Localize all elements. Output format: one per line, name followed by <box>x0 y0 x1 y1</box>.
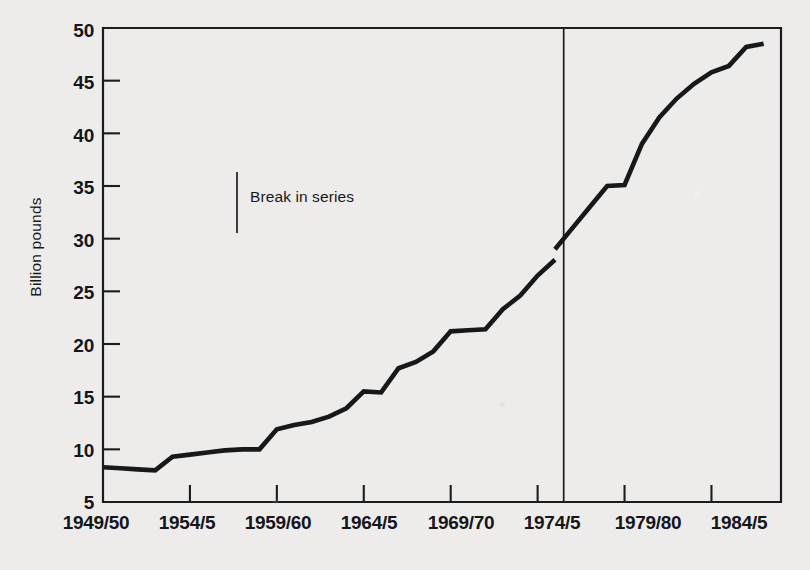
y-tick-label: 50 <box>48 20 94 42</box>
y-axis-title: Billion pounds <box>27 167 45 327</box>
data-line-segment-2 <box>555 44 764 249</box>
y-tick-label: 45 <box>48 72 94 94</box>
y-tick-label: 20 <box>48 335 94 357</box>
x-tick-label: 1964/5 <box>341 512 397 534</box>
x-tick-label: 1959/60 <box>245 512 312 534</box>
x-tick-label: 1969/70 <box>428 512 495 534</box>
data-line-segment-1 <box>103 260 555 471</box>
break-in-series-label: Break in series <box>250 188 354 206</box>
y-tick-label: 5 <box>48 492 94 514</box>
x-tick-label: 1984/5 <box>711 512 767 534</box>
x-tick-label: 1949/50 <box>63 512 130 534</box>
x-tick-label: 1974/5 <box>524 512 580 534</box>
break-in-series-marker <box>236 172 238 233</box>
y-tick-label: 35 <box>48 177 94 199</box>
x-tick-marks <box>190 485 712 502</box>
x-tick-label: 1954/5 <box>159 512 215 534</box>
y-tick-label: 10 <box>48 440 94 462</box>
y-tick-label: 40 <box>48 125 94 147</box>
y-tick-marks <box>103 81 120 450</box>
x-tick-label: 1979/80 <box>615 512 682 534</box>
plot-area <box>0 0 810 570</box>
chart-figure: Billion pounds 50 45 40 35 30 25 20 15 1… <box>0 0 810 570</box>
y-tick-label: 30 <box>48 230 94 252</box>
y-tick-label: 25 <box>48 282 94 304</box>
y-tick-label: 15 <box>48 387 94 409</box>
